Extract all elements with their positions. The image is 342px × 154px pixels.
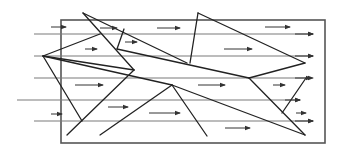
fracture-edge xyxy=(282,78,306,113)
fracture-flow-diagram xyxy=(0,0,342,154)
fracture-edge xyxy=(43,34,100,56)
fracture-edge xyxy=(249,63,305,78)
fracture-edge xyxy=(117,29,124,49)
domain-boundary-rectangle xyxy=(61,20,325,143)
fracture-edge xyxy=(172,85,207,136)
fracture-edge xyxy=(43,56,134,70)
fracture-edge xyxy=(43,56,172,85)
fracture-edge xyxy=(67,70,134,135)
fracture-edge xyxy=(43,56,82,121)
fracture-edge xyxy=(117,49,249,78)
fracture-edges-group xyxy=(43,13,306,136)
fracture-edge xyxy=(249,78,305,135)
